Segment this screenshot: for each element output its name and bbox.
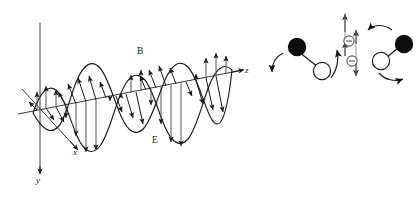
dipole-open-circle [313,62,330,79]
magnetic-field-arrows [29,66,223,124]
curved-arrow-left [272,53,283,72]
electric-field-wave [33,67,232,152]
axis-label-y: y [36,176,40,185]
oscillating-charges-center [344,14,357,76]
curved-arrow-down-right [379,73,403,80]
charge-symbol-lower [347,56,357,66]
diagram-canvas: B E z x y [0,0,418,200]
electric-field-label: E [152,136,158,146]
axis-label-x: x [73,148,77,157]
dipole-filled-circle [395,35,413,53]
electromagnetic-wave-figure [0,0,418,200]
axis-label-z: z [245,66,249,75]
dipole-filled-circle [288,38,306,56]
rotating-dipole-right [368,26,413,81]
charge-symbol-upper [344,36,354,46]
electric-field-arrows [37,53,226,152]
curved-arrow-up-left [368,26,392,31]
rotating-dipole-left [272,38,338,80]
magnetic-field-label: B [137,47,143,57]
curved-arrow-right [331,50,338,78]
dipole-open-circle [372,52,389,69]
axis-x [22,89,78,150]
magnetic-field-wave [33,63,232,132]
